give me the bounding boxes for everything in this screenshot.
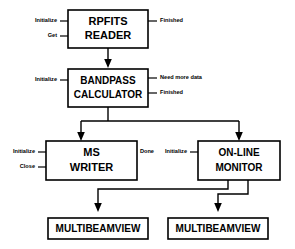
port-label-bandpass-initialize: Initialize — [35, 76, 57, 82]
edge-monitor-to-mbv-left — [98, 180, 228, 203]
node-multibeamview-left-label: MULTIBEAMVIEW — [56, 223, 141, 234]
port-label-bandpass-finished: Finished — [160, 89, 184, 95]
edge-monitor-to-mbv-right — [218, 180, 248, 203]
port-label-rpfits-initialize: Initialize — [35, 17, 57, 23]
node-rpfits-reader-label-line1: RPFITS — [88, 15, 127, 27]
arrowhead-mbv-left-in — [94, 203, 102, 212]
arrowhead-monitor-in — [235, 132, 243, 141]
node-online-monitor-label-line2: MONITOR — [215, 162, 263, 173]
node-ms-writer[interactable]: MS WRITER — [46, 141, 137, 180]
port-label-monitor-initialize: Initialize — [165, 148, 187, 154]
node-multibeamview-left[interactable]: MULTIBEAMVIEW — [48, 218, 148, 239]
node-bandpass-calculator-label-line2: CALCULATOR — [74, 89, 143, 100]
node-ms-writer-label-line2: WRITER — [70, 161, 113, 173]
node-ms-writer-label-line1: MS — [83, 146, 100, 158]
port-label-bandpass-need-more-data: Need more data — [160, 74, 203, 80]
node-online-monitor-label-line1: ON-LINE — [218, 147, 259, 158]
node-bandpass-calculator-label-line1: BANDPASS — [80, 75, 136, 86]
node-online-monitor[interactable]: ON-LINE MONITOR — [198, 141, 280, 180]
node-multibeamview-right-label: MULTIBEAMVIEW — [176, 223, 261, 234]
port-label-rpfits-get: Get — [48, 32, 57, 38]
node-multibeamview-right[interactable]: MULTIBEAMVIEW — [168, 218, 268, 239]
arrowhead-bandpass-in — [104, 59, 112, 68]
node-rpfits-reader-label-line2: READER — [85, 29, 132, 41]
flowchart-diagram: Initialize Get Finished Initialize Need … — [0, 0, 295, 249]
arrowhead-mbv-right-in — [214, 203, 222, 212]
node-rpfits-reader[interactable]: RPFITS READER — [68, 10, 148, 48]
port-label-mswriter-initialize: Initialize — [13, 148, 35, 154]
port-label-mswriter-done: Done — [140, 148, 154, 154]
node-bandpass-calculator[interactable]: BANDPASS CALCULATOR — [68, 69, 148, 107]
arrowhead-mswriter-in — [77, 132, 85, 141]
port-label-rpfits-finished: Finished — [160, 17, 184, 23]
diagram-canvas: Initialize Get Finished Initialize Need … — [0, 0, 295, 249]
port-label-mswriter-close: Close — [20, 163, 35, 169]
